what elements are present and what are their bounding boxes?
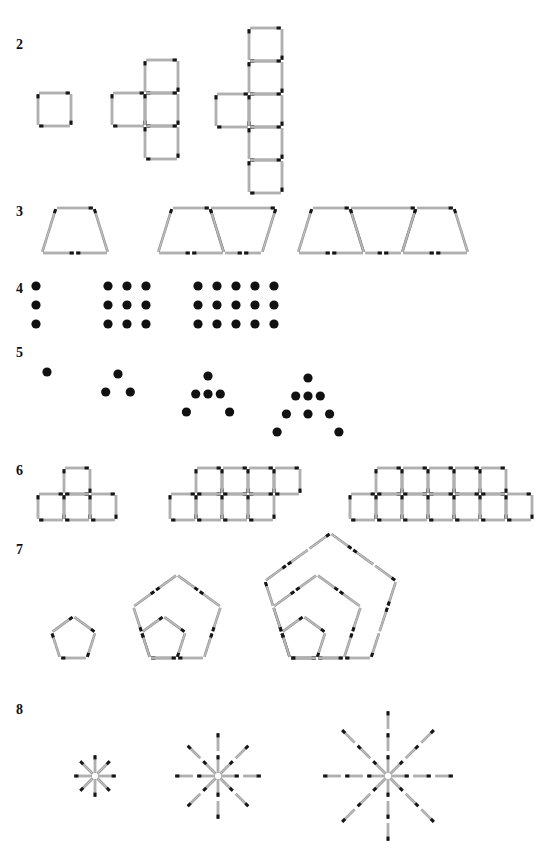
match-head	[431, 730, 434, 733]
pattern-dot	[141, 319, 150, 328]
match-head	[69, 617, 72, 619]
match-head	[80, 761, 83, 764]
matchstick	[53, 617, 73, 631]
match-head	[282, 566, 285, 568]
pattern-dot	[103, 300, 112, 309]
matchstick	[142, 633, 150, 656]
match-head	[211, 633, 212, 637]
pattern-dot	[212, 319, 221, 328]
row4-figures	[20, 278, 320, 338]
match-head	[321, 629, 324, 631]
matchstick	[454, 209, 467, 252]
matchstick	[204, 633, 212, 656]
match-head	[373, 788, 376, 791]
pattern-dot	[31, 300, 40, 309]
row7-figures	[20, 535, 440, 685]
pattern-dot	[334, 427, 343, 436]
match-head	[326, 534, 329, 536]
matchstick	[80, 761, 92, 773]
match-head	[358, 803, 361, 806]
pattern-dot	[193, 300, 202, 309]
matchstick	[421, 730, 433, 742]
match-head	[353, 550, 356, 552]
row8-svg	[20, 698, 540, 848]
pattern-dot	[316, 391, 325, 400]
matchstick	[358, 746, 370, 758]
match-head	[350, 209, 351, 213]
pattern-dot	[225, 407, 234, 416]
pattern-dot	[212, 300, 221, 309]
match-head	[210, 209, 211, 213]
match-head	[107, 788, 110, 791]
matchstick	[42, 209, 55, 252]
match-head	[213, 627, 214, 631]
match-head	[230, 761, 233, 764]
matchstick	[373, 778, 385, 790]
matchstick	[274, 591, 294, 605]
match-head	[156, 588, 159, 590]
matchstick	[220, 778, 232, 790]
pattern-dot	[282, 409, 291, 418]
matchstick	[266, 566, 286, 580]
pattern-dot	[113, 369, 122, 378]
match-head	[181, 629, 184, 631]
matchstick	[282, 633, 290, 656]
row2-svg	[20, 25, 320, 200]
row5-svg	[20, 342, 380, 454]
pattern-dot	[122, 300, 131, 309]
matchstick	[310, 534, 330, 548]
match-head	[282, 633, 283, 637]
match-head	[340, 591, 343, 593]
pattern-dot	[122, 281, 131, 290]
match-head	[414, 209, 415, 213]
pattern-dot	[103, 319, 112, 328]
row2-figures	[20, 25, 320, 200]
matchstick	[200, 591, 220, 605]
matchstick	[288, 550, 308, 564]
match-head	[392, 578, 395, 580]
matchstick	[178, 576, 198, 590]
matchstick	[188, 794, 200, 806]
row8-figures	[20, 698, 540, 848]
match-head	[342, 730, 345, 733]
pattern-dot	[203, 371, 212, 380]
matchstick	[236, 794, 248, 806]
match-head	[80, 788, 83, 791]
match-head	[299, 617, 302, 619]
match-head	[203, 761, 206, 764]
row3-svg	[20, 200, 470, 270]
pattern-dot	[103, 281, 112, 290]
matchstick	[80, 778, 92, 790]
matchstick	[97, 761, 109, 773]
row6-svg	[20, 460, 545, 535]
match-head	[400, 761, 403, 764]
pattern-dot	[31, 281, 40, 290]
matchstick	[74, 617, 94, 631]
match-head	[342, 819, 345, 822]
matchstick	[342, 809, 354, 821]
matchstick	[158, 209, 171, 252]
pattern-dot	[325, 409, 334, 418]
match-head	[245, 803, 248, 806]
pattern-dot	[122, 319, 131, 328]
match-head	[274, 209, 275, 213]
match-head	[431, 819, 434, 822]
match-head	[170, 209, 171, 213]
match-head	[200, 591, 203, 593]
match-head	[188, 803, 191, 806]
match-head	[142, 633, 143, 637]
pattern-dot	[303, 373, 312, 382]
match-head	[203, 788, 206, 791]
match-head	[177, 653, 178, 657]
match-head	[54, 209, 55, 213]
matchstick	[97, 778, 109, 790]
matchstick	[390, 761, 402, 773]
match-head	[159, 617, 162, 619]
pattern-dot	[203, 389, 212, 398]
matchstick	[134, 591, 154, 605]
match-head	[415, 746, 418, 749]
pattern-dot	[269, 281, 278, 290]
match-head	[52, 633, 53, 637]
matchstick	[94, 209, 107, 252]
row4-svg	[20, 278, 320, 338]
